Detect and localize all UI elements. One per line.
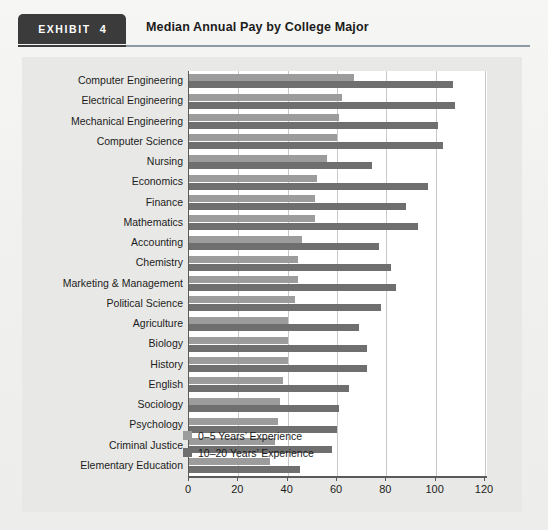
header-rule-tab-segment: [18, 45, 126, 47]
bar-light: [189, 155, 327, 162]
category-axis-labels: Computer EngineeringElectrical Engineeri…: [22, 71, 183, 476]
bar-light: [189, 296, 295, 303]
bar-light: [189, 74, 354, 81]
bar-light: [189, 236, 302, 243]
bar-light: [189, 114, 339, 121]
page-title: Median Annual Pay by College Major: [146, 20, 369, 34]
legend-swatch: [183, 431, 192, 440]
bar-dark: [189, 284, 396, 291]
gridline: [485, 71, 486, 476]
category-label: Psychology: [129, 418, 183, 430]
bar-light: [189, 276, 298, 283]
category-label: Mathematics: [123, 216, 183, 228]
bar-light: [189, 175, 317, 182]
gridline: [436, 71, 437, 476]
bar-dark: [189, 345, 367, 352]
bar-dark: [189, 102, 455, 109]
category-label: English: [149, 378, 183, 390]
bar-light: [189, 256, 298, 263]
bar-dark: [189, 264, 391, 271]
bar-dark: [189, 203, 406, 210]
bar-dark: [189, 324, 359, 331]
category-label: History: [150, 358, 183, 370]
x-tick-label: 80: [379, 483, 391, 495]
axis-tick: [287, 476, 288, 481]
exhibit-tab-number: 4: [100, 23, 106, 35]
bar-dark: [189, 365, 367, 372]
exhibit-tab-label: EXHIBIT: [38, 23, 91, 35]
gridline: [238, 71, 239, 476]
category-label: Electrical Engineering: [81, 94, 183, 106]
category-label: Nursing: [147, 155, 183, 167]
category-label: Economics: [132, 175, 183, 187]
gridline: [386, 71, 387, 476]
bar-light: [189, 377, 283, 384]
bar-light: [189, 418, 278, 425]
axis-tick: [385, 476, 386, 481]
legend-label: 0–5 Years’ Experience: [198, 430, 302, 442]
x-axis-line: [188, 476, 487, 478]
bar-dark: [189, 385, 349, 392]
category-label: Marketing & Management: [63, 277, 183, 289]
bar-dark: [189, 243, 379, 250]
bar-dark: [189, 162, 372, 169]
bar-light: [189, 337, 288, 344]
axis-tick: [336, 476, 337, 481]
bar-light: [189, 357, 288, 364]
category-label: Accounting: [131, 236, 183, 248]
bar-light: [189, 317, 288, 324]
category-label: Elementary Education: [80, 459, 183, 471]
legend-label: 10–20 Years’ Experience: [198, 447, 314, 459]
bar-light: [189, 398, 280, 405]
bar-light: [189, 94, 342, 101]
x-tick-label: 100: [425, 483, 443, 495]
bar-light: [189, 215, 315, 222]
x-tick-label: 120: [475, 483, 493, 495]
x-tick-label: 20: [231, 483, 243, 495]
category-label: Agriculture: [133, 317, 183, 329]
chart-legend: 0–5 Years’ Experience10–20 Years’ Experi…: [183, 427, 314, 461]
bar-dark: [189, 304, 381, 311]
category-label: Biology: [149, 337, 183, 349]
category-label: Chemistry: [136, 256, 183, 268]
x-tick-label: 0: [185, 483, 191, 495]
exhibit-page: EXHIBIT 4 Median Annual Pay by College M…: [0, 0, 548, 530]
exhibit-header: EXHIBIT 4 Median Annual Pay by College M…: [18, 14, 530, 50]
category-label: Sociology: [137, 398, 183, 410]
axis-tick: [435, 476, 436, 481]
axis-tick: [188, 476, 189, 481]
x-tick-label: 40: [281, 483, 293, 495]
bar-light: [189, 195, 315, 202]
bar-dark: [189, 223, 418, 230]
gridline: [288, 71, 289, 476]
category-label: Computer Engineering: [78, 74, 183, 86]
category-label: Criminal Justice: [109, 439, 183, 451]
bar-dark: [189, 122, 438, 129]
bar-light: [189, 134, 337, 141]
bar-dark: [189, 183, 428, 190]
axis-tick: [237, 476, 238, 481]
category-label: Political Science: [107, 297, 183, 309]
category-label: Mechanical Engineering: [71, 115, 183, 127]
bar-dark: [189, 466, 300, 473]
category-label: Computer Science: [97, 135, 183, 147]
bar-dark: [189, 81, 453, 88]
bar-dark: [189, 142, 443, 149]
plot-area: [188, 71, 487, 476]
legend-item: 10–20 Years’ Experience: [183, 444, 314, 461]
axis-tick: [484, 476, 485, 481]
gridline: [337, 71, 338, 476]
exhibit-tab: EXHIBIT 4: [18, 14, 126, 44]
x-tick-label: 60: [330, 483, 342, 495]
plot-wrapper: 020406080100120: [188, 71, 487, 476]
legend-swatch: [183, 448, 192, 457]
category-label: Finance: [146, 196, 183, 208]
chart-panel: Computer EngineeringElectrical Engineeri…: [22, 57, 522, 512]
bar-dark: [189, 405, 339, 412]
legend-item: 0–5 Years’ Experience: [183, 427, 314, 444]
